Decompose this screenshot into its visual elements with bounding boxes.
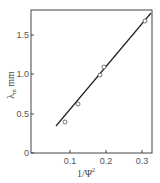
chart: 0 0.5 1.0 1.5 0.1 0.2 0.3 1/Ψ2 λm mm [0, 0, 160, 183]
x-axis-label: 1/Ψ2 [77, 167, 95, 179]
y-tick-label: 1.5 [16, 30, 29, 40]
y-tick-label: 1.0 [16, 69, 29, 79]
x-tick-label: 0.3 [136, 156, 149, 166]
x-axis: 0.1 0.2 0.3 [64, 150, 149, 166]
x-tick-label: 0.1 [64, 156, 77, 166]
fit-line [56, 13, 151, 126]
data-point [143, 19, 147, 23]
data-point [102, 65, 106, 69]
y-tick-label: 0.5 [16, 109, 29, 119]
y-tick-label: 0 [24, 148, 29, 158]
data-points [63, 19, 147, 124]
data-point [76, 102, 80, 106]
plot-frame [31, 10, 152, 153]
data-point [63, 120, 67, 124]
data-point [98, 73, 102, 77]
x-tick-label: 0.2 [100, 156, 113, 166]
y-axis-label: λm mm [5, 71, 17, 99]
